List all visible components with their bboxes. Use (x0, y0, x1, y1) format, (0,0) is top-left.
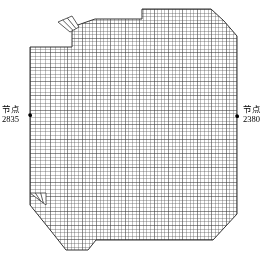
node-marker-right (236, 115, 239, 118)
node-marker-left (29, 114, 32, 117)
mesh-figure: 节点 2835 节点 2380 (0, 0, 266, 265)
node-label-right: 节点 2380 (243, 105, 261, 124)
mesh-drawing-canvas (0, 0, 266, 265)
node-label-right-id: 2380 (243, 115, 261, 125)
node-label-left: 节点 2835 (2, 105, 20, 124)
node-label-left-id: 2835 (2, 115, 20, 125)
